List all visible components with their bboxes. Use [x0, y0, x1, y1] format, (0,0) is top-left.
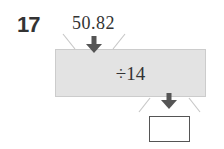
operation-box: ÷14: [55, 49, 206, 97]
answer-input-box[interactable]: [149, 116, 190, 142]
input-value: 50.82: [72, 13, 115, 34]
problem-number: 17: [17, 12, 39, 38]
operation-label: ÷14: [56, 63, 205, 85]
